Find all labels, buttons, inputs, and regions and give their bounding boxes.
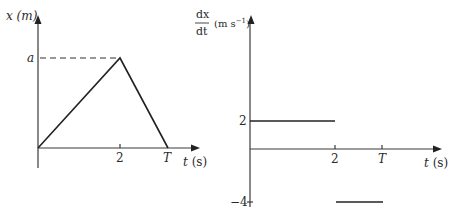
right-y-label-numerator: dx: [196, 8, 210, 21]
right-xtick-2: 2: [331, 152, 339, 166]
right-y-label-denominator: dt: [196, 25, 208, 38]
left-x-axis-arrow-icon: [191, 145, 200, 152]
kinematics-diagram: x (m) a 2 T t (s) dx dt (m s−1) 2 −4 2 T: [0, 0, 449, 213]
left-xtick-T: T: [163, 151, 172, 165]
velocity-time-graph: dx dt (m s−1) 2 −4 2 T t (s): [195, 8, 448, 209]
right-y-label-unit: (m s−1): [214, 17, 250, 29]
left-x-label: t (s): [183, 155, 207, 169]
position-time-graph: x (m) a 2 T t (s): [6, 9, 207, 169]
left-y-label: x (m): [6, 9, 38, 23]
position-curve: [38, 58, 168, 148]
left-ytick-a: a: [27, 51, 34, 65]
left-xtick-2: 2: [116, 151, 124, 165]
right-x-label: t (s): [424, 156, 448, 170]
right-ytick-2: 2: [239, 114, 247, 128]
right-ytick-minus4: −4: [230, 195, 248, 209]
right-xtick-T: T: [378, 152, 387, 166]
right-x-axis-arrow-icon: [433, 146, 442, 153]
